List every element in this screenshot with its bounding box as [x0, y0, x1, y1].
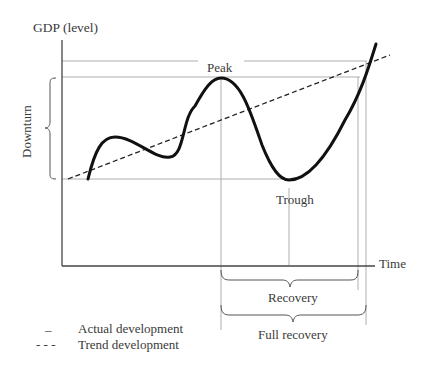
trough-label: Trough	[276, 193, 314, 206]
y-axis-label: GDP (level)	[33, 21, 98, 35]
x-axis-label: Time	[379, 257, 406, 270]
full-recovery-brace	[221, 305, 366, 322]
full-recovery-label: Full recovery	[258, 328, 328, 341]
downturn-brace	[45, 78, 56, 179]
legend-trend-symbol: - - -	[36, 338, 56, 351]
recovery-label: Recovery	[268, 291, 318, 304]
legend-trend-label: Trend development	[78, 338, 179, 351]
recovery-brace	[221, 270, 358, 287]
guide-lines	[62, 61, 367, 330]
business-cycle-diagram	[0, 0, 427, 372]
legend-actual-symbol: –	[45, 323, 52, 336]
peak-label: Peak	[207, 61, 232, 74]
downturn-label: Downturn	[20, 105, 33, 158]
legend-actual-label: Actual development	[78, 322, 183, 335]
